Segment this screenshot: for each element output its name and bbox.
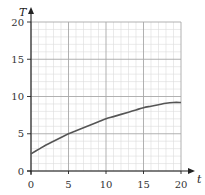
y-tick-label: 15	[11, 54, 24, 65]
y-tick-labels: 05101520	[11, 17, 24, 177]
x-tick-label: 15	[137, 179, 150, 190]
y-tick-label: 10	[11, 91, 24, 102]
x-tick-label: 5	[65, 179, 71, 190]
y-axis-arrow-icon	[28, 7, 34, 14]
line-chart: 05101520 05101520 t T	[0, 0, 205, 195]
x-tick-labels: 05101520	[28, 179, 188, 190]
y-tick-label: 0	[18, 166, 24, 177]
x-axis-title: t	[197, 173, 202, 186]
x-tick-label: 0	[28, 179, 34, 190]
axis-ticks	[27, 22, 181, 174]
x-tick-label: 20	[175, 179, 188, 190]
x-axis-arrow-icon	[188, 168, 195, 174]
y-tick-label: 5	[18, 128, 24, 139]
x-tick-label: 10	[100, 179, 113, 190]
y-axis-title: T	[19, 6, 28, 19]
axes	[27, 7, 195, 175]
